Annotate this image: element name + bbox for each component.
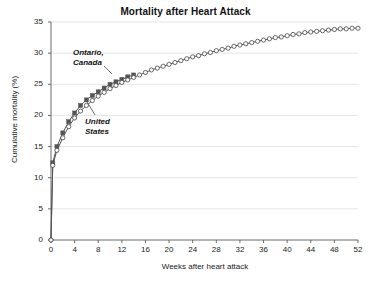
- marker-circle: [132, 75, 136, 79]
- marker-circle: [90, 98, 94, 102]
- x-tick-label-52: 52: [348, 246, 368, 254]
- y-tick-label-30: 30: [21, 49, 43, 57]
- marker-circle: [114, 83, 118, 87]
- x-tick-label-12: 12: [112, 246, 132, 254]
- marker-circle: [179, 59, 183, 63]
- marker-circle: [51, 163, 55, 167]
- marker-circle: [126, 78, 130, 82]
- marker-circle: [155, 66, 159, 70]
- y-tick-label-35: 35: [21, 18, 43, 26]
- marker-circle: [84, 103, 88, 107]
- marker-circle: [279, 35, 283, 39]
- marker-circle: [167, 62, 171, 66]
- x-tick-label-44: 44: [301, 246, 321, 254]
- marker-circle: [303, 30, 307, 34]
- marker-circle: [244, 42, 248, 46]
- marker-square: [102, 86, 106, 90]
- marker-circle: [273, 35, 277, 39]
- marker-square: [79, 103, 83, 107]
- marker-square: [108, 82, 112, 86]
- annotation-united-states: United States: [85, 117, 110, 136]
- marker-circle: [55, 148, 59, 152]
- marker-circle: [309, 30, 313, 34]
- marker-circle: [78, 109, 82, 113]
- plot-canvas: [0, 0, 371, 281]
- x-tick-label-20: 20: [159, 246, 179, 254]
- x-tick-label-28: 28: [206, 246, 226, 254]
- y-tick-label-25: 25: [21, 80, 43, 88]
- marker-circle: [267, 37, 271, 41]
- marker-circle: [326, 28, 330, 32]
- x-tick-label-48: 48: [324, 246, 344, 254]
- marker-square: [96, 90, 100, 94]
- marker-circle: [185, 57, 189, 61]
- marker-circle: [214, 49, 218, 53]
- marker-circle: [120, 80, 124, 84]
- marker-circle: [61, 136, 65, 140]
- marker-circle: [149, 68, 153, 72]
- marker-circle: [320, 29, 324, 33]
- marker-circle: [291, 32, 295, 36]
- x-tick-label-36: 36: [254, 246, 274, 254]
- y-tick-label-15: 15: [21, 143, 43, 151]
- marker-circle: [143, 70, 147, 74]
- marker-circle: [238, 43, 242, 47]
- marker-circle: [256, 39, 260, 43]
- marker-circle: [173, 60, 177, 64]
- marker-circle: [226, 46, 230, 50]
- marker-circle: [137, 73, 141, 77]
- marker-circle: [196, 54, 200, 58]
- marker-circle: [73, 116, 77, 120]
- y-tick-label-20: 20: [21, 111, 43, 119]
- marker-circle: [356, 26, 360, 30]
- marker-circle: [297, 32, 301, 36]
- marker-circle: [208, 50, 212, 54]
- marker-circle: [161, 64, 165, 68]
- x-tick-label-40: 40: [277, 246, 297, 254]
- marker-circle: [102, 90, 106, 94]
- y-tick-label-0: 0: [21, 236, 43, 244]
- annotation-us-line1: United: [85, 117, 110, 127]
- marker-square: [90, 93, 94, 97]
- marker-circle: [108, 87, 112, 91]
- marker-square: [73, 111, 77, 115]
- marker-circle: [220, 47, 224, 51]
- marker-circle: [232, 44, 236, 48]
- leader-line-ontario: [104, 66, 112, 74]
- annotation-ontario-line1: Ontario,: [73, 48, 104, 58]
- chart-figure: Mortality after Heart Attack Cumulative …: [0, 0, 371, 281]
- marker-circle: [67, 125, 71, 129]
- annotation-us-line2: States: [85, 127, 110, 137]
- marker-circle: [315, 29, 319, 33]
- marker-circle: [285, 34, 289, 38]
- x-tick-label-32: 32: [230, 246, 250, 254]
- marker-circle: [338, 27, 342, 31]
- x-tick-label-0: 0: [41, 246, 61, 254]
- y-tick-label-10: 10: [21, 174, 43, 182]
- marker-circle: [261, 38, 265, 42]
- x-tick-label-16: 16: [135, 246, 155, 254]
- marker-square: [84, 98, 88, 102]
- marker-circle: [250, 40, 254, 44]
- y-tick-label-5: 5: [21, 205, 43, 213]
- marker-circle: [191, 55, 195, 59]
- marker-origin: [49, 238, 53, 242]
- marker-square: [67, 120, 71, 124]
- x-tick-label-8: 8: [88, 246, 108, 254]
- marker-circle: [96, 94, 100, 98]
- annotation-ontario-canada: Ontario, Canada: [73, 48, 104, 67]
- x-tick-label-4: 4: [65, 246, 85, 254]
- marker-circle: [344, 27, 348, 31]
- x-tick-label-24: 24: [183, 246, 203, 254]
- annotation-ontario-line2: Canada: [73, 58, 104, 68]
- marker-circle: [202, 52, 206, 56]
- marker-circle: [350, 26, 354, 30]
- marker-circle: [332, 27, 336, 31]
